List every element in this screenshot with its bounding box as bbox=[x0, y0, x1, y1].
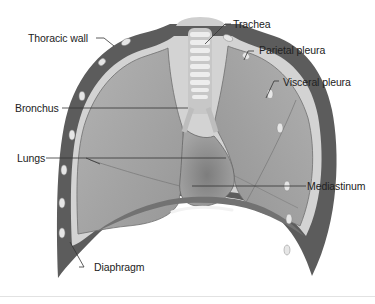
label-thoracic-wall: Thoracic wall bbox=[28, 32, 88, 44]
neck-tissue bbox=[176, 17, 226, 26]
label-parietal-pleura: Parietal pleura bbox=[259, 44, 325, 56]
label-visceral-pleura: Visceral pleura bbox=[283, 76, 351, 88]
diaphragm-highlight bbox=[172, 207, 232, 212]
label-diaphragm: Diaphragm bbox=[94, 261, 144, 273]
leader-thoracic-wall bbox=[96, 38, 114, 46]
thorax-diagram: Thoracic wall Trachea Parietal pleura Vi… bbox=[0, 0, 375, 304]
label-trachea: Trachea bbox=[233, 18, 270, 30]
bottom-divider bbox=[0, 296, 375, 297]
label-bronchus: Bronchus bbox=[15, 102, 59, 114]
label-lungs: Lungs bbox=[17, 152, 45, 164]
label-mediastinum: Mediastinum bbox=[307, 180, 365, 192]
